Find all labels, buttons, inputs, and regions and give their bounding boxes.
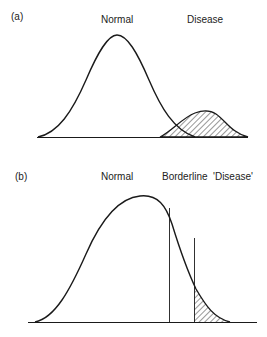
distribution-diagram bbox=[0, 0, 267, 337]
panel-a bbox=[37, 35, 248, 138]
panel-b bbox=[28, 196, 257, 323]
disease-distribution-curve bbox=[160, 111, 248, 137]
disease-tail-hatch bbox=[35, 196, 230, 322]
normal-distribution-curve bbox=[38, 35, 195, 137]
